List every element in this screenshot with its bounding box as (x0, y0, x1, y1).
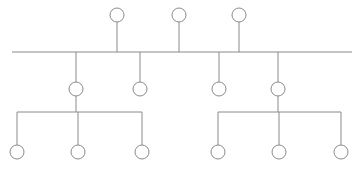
top-node-3[interactable] (232, 8, 246, 22)
leaf-node-4[interactable] (211, 145, 225, 159)
middle-node-4[interactable] (271, 82, 285, 96)
top-stem-group (117, 22, 239, 52)
drop-stem-group (76, 96, 278, 112)
middle-node-3[interactable] (212, 82, 226, 96)
middle-node-2[interactable] (133, 82, 147, 96)
top-node-2[interactable] (172, 8, 186, 22)
leaf-node-2[interactable] (71, 145, 85, 159)
leaf-node-5[interactable] (272, 145, 286, 159)
top-node-group (110, 8, 246, 22)
middle-node-group (69, 82, 285, 96)
middle-node-1[interactable] (69, 82, 83, 96)
middle-stem-group (76, 52, 278, 82)
leaf-node-group (10, 145, 348, 159)
leaf-stem-group (17, 112, 341, 145)
leaf-node-6[interactable] (334, 145, 348, 159)
leaf-node-1[interactable] (10, 145, 24, 159)
top-node-1[interactable] (110, 8, 124, 22)
topology-diagram (0, 0, 359, 173)
topology-diagram-root (0, 0, 359, 173)
leaf-node-3[interactable] (135, 145, 149, 159)
